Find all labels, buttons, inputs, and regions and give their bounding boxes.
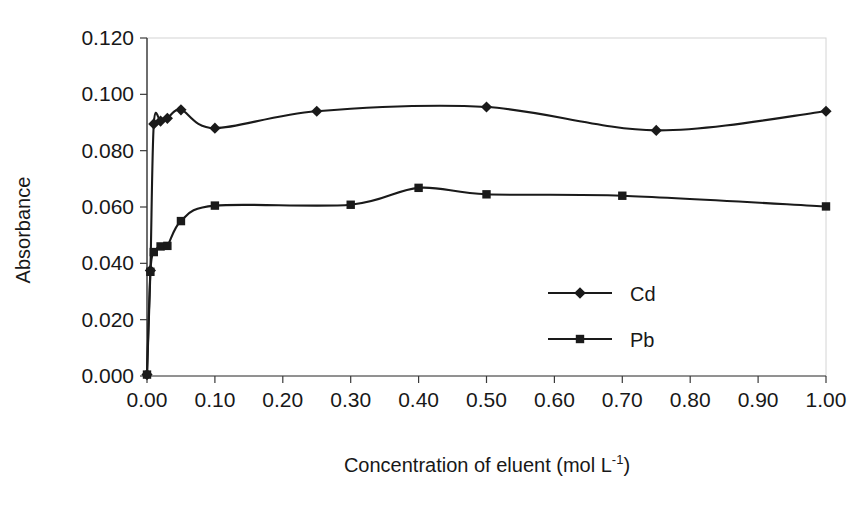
x-tick-label: 1.00 — [806, 388, 847, 411]
y-axis-title-text: Absorbance — [12, 177, 34, 284]
legend-label: Cd — [630, 283, 656, 305]
x-axis-tick-labels: 0.000.100.200.300.400.500.600.700.800.90… — [127, 388, 847, 411]
x-axis-title: Concentration of eluent (mol L-1) — [344, 452, 630, 476]
x-tick-label: 0.90 — [738, 388, 779, 411]
y-tick-label: 0.060 — [81, 195, 134, 218]
y-axis-tick-labels: 0.0000.0200.0400.0600.0800.1000.120 — [81, 26, 134, 387]
y-tick-label: 0.120 — [81, 26, 134, 49]
series-marker-square — [146, 268, 154, 276]
y-axis-ticks — [140, 38, 147, 376]
y-tick-label: 0.040 — [81, 251, 134, 274]
series-marker-square — [576, 335, 584, 343]
series-marker-square — [143, 370, 151, 378]
x-tick-label: 0.20 — [262, 388, 303, 411]
x-tick-label: 0.80 — [670, 388, 711, 411]
series-marker-square — [618, 192, 626, 200]
series-marker-square — [414, 184, 422, 192]
chart-figure: 0.0000.0200.0400.0600.0800.1000.120 0.00… — [0, 0, 853, 505]
y-tick-label: 0.080 — [81, 139, 134, 162]
x-tick-label: 0.60 — [534, 388, 575, 411]
series-marker-square — [163, 242, 171, 250]
absorbance-vs-concentration-chart: 0.0000.0200.0400.0600.0800.1000.120 0.00… — [0, 0, 853, 505]
x-tick-label: 0.50 — [466, 388, 507, 411]
y-axis-title: Absorbance — [12, 177, 34, 284]
x-axis-ticks — [147, 376, 826, 383]
x-tick-label: 0.40 — [398, 388, 439, 411]
series-marker-square — [822, 202, 830, 210]
x-tick-label: 0.00 — [127, 388, 168, 411]
x-tick-label: 0.10 — [194, 388, 235, 411]
plot-background — [147, 38, 826, 376]
series-marker-square — [211, 201, 219, 209]
series-marker-square — [177, 217, 185, 225]
y-tick-label: 0.000 — [81, 364, 134, 387]
series-marker-square — [347, 201, 355, 209]
x-tick-label: 0.70 — [602, 388, 643, 411]
series-marker-square — [482, 190, 490, 198]
x-axis-title-text: Concentration of eluent (mol L-1) — [344, 452, 630, 476]
y-tick-label: 0.100 — [81, 82, 134, 105]
y-tick-label: 0.020 — [81, 308, 134, 331]
x-tick-label: 0.30 — [330, 388, 371, 411]
legend-label: Pb — [630, 329, 654, 351]
